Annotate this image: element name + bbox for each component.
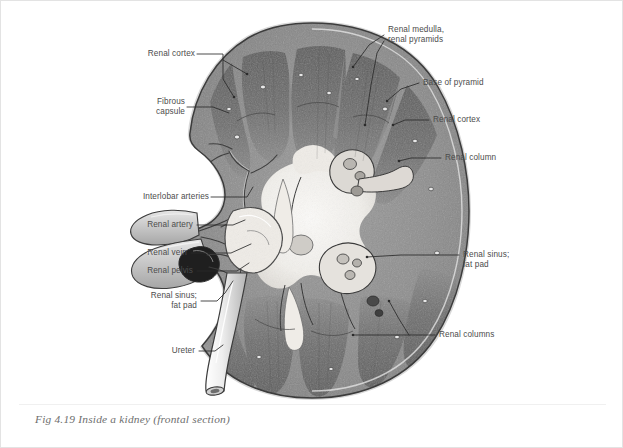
caption-divider: [19, 404, 606, 405]
label-renal-artery: Renal artery: [119, 220, 193, 230]
figure-caption: Fig 4.19 Inside a kidney (frontal sectio…: [35, 413, 230, 425]
label-fibrous-capsule: Fibrous capsule: [119, 97, 185, 116]
figure-page: Renal cortex Fibrous capsule Interlobar …: [0, 0, 623, 448]
label-ureter: Ureter: [151, 346, 195, 356]
label-renal-cortex-left: Renal cortex: [119, 49, 195, 59]
label-renal-pelvis: Renal pelvis: [119, 266, 193, 276]
label-base-of-pyramid: Base of pyramid: [423, 78, 527, 88]
label-renal-columns: Renal columns: [439, 330, 533, 340]
label-renal-vein: Renal vein: [119, 248, 187, 258]
label-renal-medulla-pyramids: Renal medulla, renal pyramids: [388, 25, 498, 44]
label-renal-column: Renal column: [445, 153, 537, 163]
label-renal-sinus-fat-pad-left: Renal sinus; fat pad: [119, 291, 197, 310]
label-renal-sinus-fat-pad-right: Renal sinus; fat pad: [463, 250, 543, 269]
label-interlobar-arteries: Interlobar arteries: [109, 192, 209, 202]
label-renal-cortex-right: Renal cortex: [433, 115, 519, 125]
kidney-illustration: [1, 1, 623, 448]
